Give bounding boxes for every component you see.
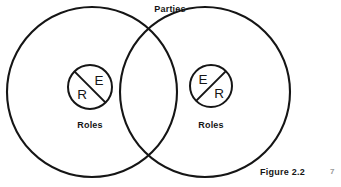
- left-roles-role-token: R: [77, 87, 87, 102]
- page-number-mark: 7: [330, 167, 335, 176]
- figure-container: Parties E R Roles E R Roles Figure 2.2 7: [0, 0, 341, 187]
- figure-caption: Figure 2.2: [260, 167, 305, 177]
- left-roles-employee-token: E: [94, 73, 103, 88]
- right-roles-label: Roles: [198, 120, 224, 130]
- left-party-circle[interactable]: [7, 7, 177, 177]
- right-roles-group[interactable]: E R Roles: [190, 65, 232, 130]
- right-roles-employee-token: E: [198, 72, 207, 87]
- left-roles-group[interactable]: E R Roles: [68, 65, 112, 130]
- parties-label: Parties: [154, 4, 185, 14]
- venn-diagram: Parties E R Roles E R Roles Figure 2.2 7: [0, 0, 341, 187]
- left-roles-label: Roles: [77, 120, 103, 130]
- right-roles-role-token: R: [214, 86, 224, 101]
